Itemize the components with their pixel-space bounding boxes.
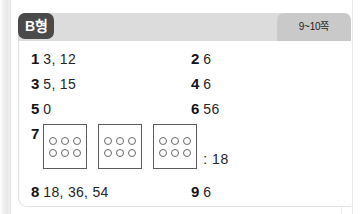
dot-icon [49, 137, 57, 145]
dot-row [157, 147, 193, 159]
answer-number: 4 [191, 76, 199, 91]
page-gutter-line [10, 0, 11, 214]
dot-icon [183, 149, 191, 157]
answer-key-page: 9~10쪽 B형 1 3, 12 2 6 3 5, 15 4 6 [0, 0, 364, 214]
dot-row [157, 135, 193, 147]
dot-icon [171, 137, 179, 145]
type-badge-label: B형 [25, 19, 47, 33]
answer-value: 6 [203, 185, 211, 199]
answer-number: 5 [31, 101, 39, 116]
dot-icon [61, 137, 69, 145]
answer-value: 56 [203, 102, 219, 116]
answer-value: 5, 15 [43, 77, 76, 91]
answer-item-4: 4 6 [191, 76, 211, 91]
dot-icon [104, 149, 112, 157]
answer-value: 6 [203, 77, 211, 91]
answer-number: 7 [31, 126, 39, 141]
answer-item-9: 9 6 [191, 184, 211, 199]
answer-item-1: 1 3, 12 [31, 51, 76, 66]
dot-icon [73, 137, 81, 145]
answer-number: 9 [191, 184, 199, 199]
dot-icon [128, 149, 136, 157]
dot-box [43, 124, 87, 169]
answer-item-8: 8 18, 36, 54 [31, 184, 109, 199]
answer-value: 3, 12 [43, 52, 76, 66]
answer-item-2: 2 6 [191, 51, 211, 66]
answer-item-3: 3 5, 15 [31, 76, 76, 91]
answer-item-5: 5 0 [31, 101, 51, 116]
dot-icon [128, 137, 136, 145]
dot-icon [49, 149, 57, 157]
answer-number: 2 [191, 51, 199, 66]
answer-list: 1 3, 12 2 6 3 5, 15 4 6 5 0 6 [19, 41, 352, 207]
dot-box [153, 124, 197, 169]
dot-icon [183, 137, 191, 145]
dot-box [98, 124, 142, 169]
answer-number: 6 [191, 101, 199, 116]
dot-icon [159, 149, 167, 157]
answer-result: : 18 [203, 152, 228, 166]
dot-icon [61, 149, 69, 157]
dot-icon [171, 149, 179, 157]
answer-number: 8 [31, 184, 39, 199]
answer-number: 1 [31, 51, 39, 66]
answer-item-6: 6 56 [191, 101, 220, 116]
answer-panel: 1 3, 12 2 6 3 5, 15 4 6 5 0 6 [18, 41, 351, 207]
answer-value: 18, 36, 54 [43, 185, 108, 199]
answer-value: 6 [203, 52, 211, 66]
answer-number: 3 [31, 76, 39, 91]
dot-icon [116, 149, 124, 157]
answer-item-7: 7 [31, 124, 229, 169]
page-range-badge: 9~10쪽 [277, 13, 351, 41]
dot-icon [159, 137, 167, 145]
dot-row [47, 147, 83, 159]
type-badge: B형 [18, 13, 54, 39]
dot-icon [116, 137, 124, 145]
answer-value: 0 [43, 102, 51, 116]
header-bar [18, 13, 312, 41]
dot-row [102, 135, 138, 147]
page-range-label: 9~10쪽 [299, 22, 330, 33]
dot-row [47, 135, 83, 147]
dot-icon [73, 149, 81, 157]
dot-row [102, 147, 138, 159]
dot-icon [104, 137, 112, 145]
page-right-edge [352, 0, 353, 214]
